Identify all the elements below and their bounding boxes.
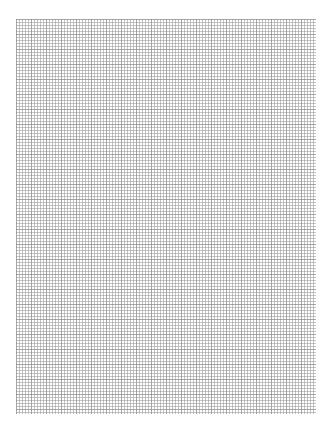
grid-paper-page	[0, 0, 331, 432]
graph-grid	[16, 19, 316, 414]
page-footer	[16, 418, 316, 430]
